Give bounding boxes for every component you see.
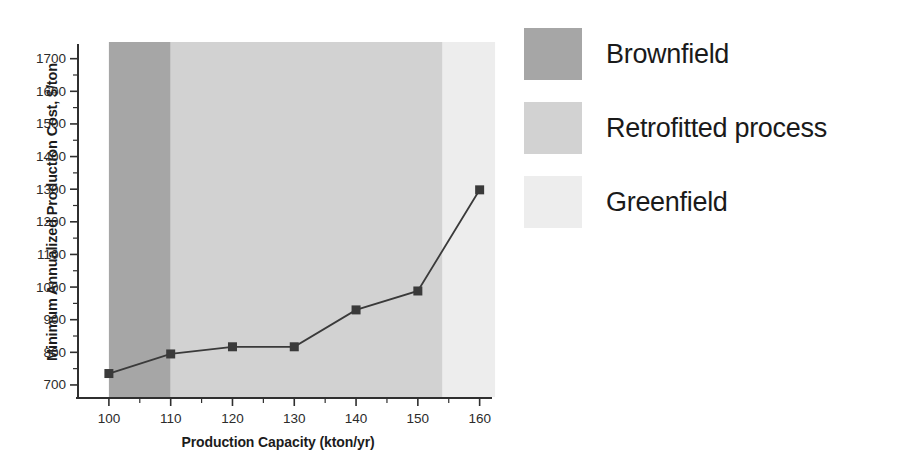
legend-label-retrofitted-process: Retrofitted process bbox=[606, 113, 827, 144]
x-tick-label: 160 bbox=[468, 411, 491, 426]
x-axis-ticks: 100110120130140150160 bbox=[98, 398, 491, 426]
data-point-marker bbox=[290, 342, 299, 351]
legend-swatch-retrofitted-process bbox=[524, 102, 582, 154]
data-point-marker bbox=[413, 286, 422, 295]
y-axis-ticks: 7008009001000110012001300140015001600170… bbox=[36, 51, 78, 392]
y-tick-label: 1500 bbox=[36, 116, 66, 131]
y-tick-label: 1100 bbox=[37, 247, 66, 262]
plot-area: 7008009001000110012001300140015001600170… bbox=[0, 0, 520, 469]
y-tick-label: 1600 bbox=[36, 84, 66, 99]
chart-figure: Minimum Annualized Production Cost, $/to… bbox=[0, 0, 520, 469]
band-greenfield bbox=[443, 42, 496, 397]
x-tick-label: 100 bbox=[98, 411, 121, 426]
x-tick-label: 140 bbox=[345, 411, 368, 426]
y-tick-label: 1200 bbox=[36, 214, 66, 229]
band-retrofitted-process bbox=[171, 42, 443, 397]
y-tick-label: 1300 bbox=[36, 182, 66, 197]
legend-label-greenfield: Greenfield bbox=[606, 187, 728, 218]
x-tick-label: 150 bbox=[407, 411, 430, 426]
y-tick-label: 1700 bbox=[36, 51, 66, 66]
legend-swatch-greenfield bbox=[524, 176, 582, 228]
x-tick-label: 130 bbox=[283, 411, 306, 426]
legend-item-brownfield: Brownfield bbox=[524, 30, 910, 78]
data-point-marker bbox=[104, 369, 113, 378]
y-tick-label: 1400 bbox=[36, 149, 66, 164]
legend-item-greenfield: Greenfield bbox=[524, 178, 910, 226]
data-point-marker bbox=[228, 342, 237, 351]
chart-screenshot: Minimum Annualized Production Cost, $/to… bbox=[0, 0, 910, 469]
band-brownfield bbox=[109, 42, 171, 397]
x-tick-label: 110 bbox=[160, 411, 182, 426]
y-tick-label: 700 bbox=[43, 377, 66, 392]
legend-label-brownfield: Brownfield bbox=[606, 39, 729, 70]
y-tick-label: 1000 bbox=[36, 280, 66, 295]
data-point-marker bbox=[166, 349, 175, 358]
legend-swatch-brownfield bbox=[524, 28, 582, 80]
shaded-bands bbox=[109, 42, 495, 397]
y-tick-label: 900 bbox=[43, 312, 66, 327]
y-tick-label: 800 bbox=[43, 345, 66, 360]
data-point-marker bbox=[352, 305, 361, 314]
x-tick-label: 120 bbox=[221, 411, 244, 426]
data-point-marker bbox=[475, 185, 484, 194]
legend-item-retrofitted-process: Retrofitted process bbox=[524, 104, 910, 152]
chart-legend: Brownfield Retrofitted process Greenfiel… bbox=[524, 30, 910, 252]
